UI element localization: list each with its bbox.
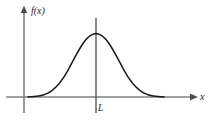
mean-label: L: [97, 103, 103, 113]
bell-curve-figure: f(x) x L: [0, 0, 213, 126]
bell-curve-chart: f(x) x L: [0, 0, 213, 126]
x-axis-label: x: [199, 91, 205, 102]
chart-background: [0, 0, 213, 126]
y-axis-label: f(x): [31, 5, 46, 17]
